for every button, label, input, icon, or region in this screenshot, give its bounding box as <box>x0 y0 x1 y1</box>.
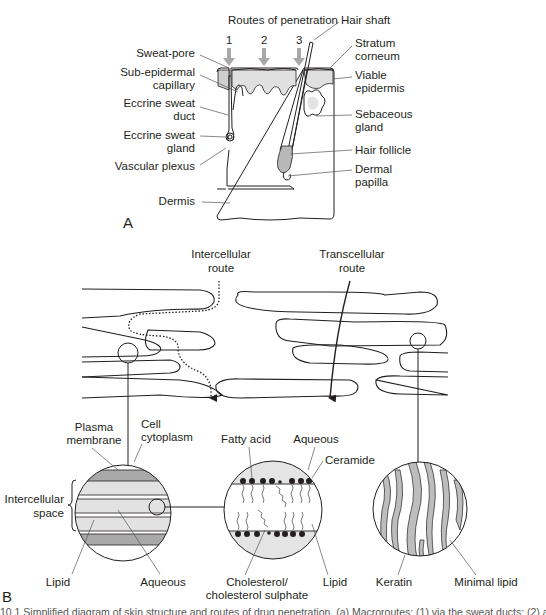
transcellular-route-label: Transcellular <box>319 248 385 260</box>
svg-text:cholesterol sulphate: cholesterol sulphate <box>206 589 308 601</box>
magnify-circle-transcellular <box>410 333 426 349</box>
corneocyte-layers <box>82 289 448 398</box>
label-dermal-papilla: Dermal <box>355 163 392 175</box>
zoom-circle-keratin: Keratin Minimal lipid <box>372 460 518 588</box>
arrow-down-icon <box>293 48 305 66</box>
route-number-3: 3 <box>296 34 302 46</box>
arrow-down-icon <box>223 48 235 66</box>
label-plasma-membrane: Plasma <box>75 421 114 433</box>
label-sweat-pore: Sweat-pore <box>136 47 195 59</box>
svg-text:gland: gland <box>355 121 383 133</box>
label-sebaceous-gland: Sebaceous <box>355 108 413 120</box>
label-ceramide: Ceramide <box>325 454 375 466</box>
skin-block <box>217 42 334 220</box>
label-cell-cytoplasm: Cell <box>141 418 161 430</box>
routes-title: Routes of penetration <box>228 14 338 26</box>
label-keratin: Keratin <box>376 576 412 588</box>
panel-b: Intercellular route Transcellular route <box>2 248 518 605</box>
label-cholesterol: Cholesterol/ <box>226 576 288 588</box>
svg-text:capillary: capillary <box>153 79 195 91</box>
svg-text:epidermis: epidermis <box>355 82 405 94</box>
label-hair-shaft: Hair shaft <box>341 14 391 26</box>
svg-text:route: route <box>208 262 234 274</box>
label-eccrine-duct: Eccrine sweat <box>123 97 195 109</box>
svg-text:space: space <box>33 507 64 519</box>
route-number-2: 2 <box>261 34 267 46</box>
label-hair-follicle: Hair follicle <box>355 144 411 156</box>
arrow-down-icon <box>258 48 270 66</box>
label-lipid-left: Lipid <box>46 576 70 588</box>
label-vascular-plexus: Vascular plexus <box>115 160 196 172</box>
label-fatty-acid: Fatty acid <box>221 433 271 445</box>
panel-a-letter: A <box>123 214 133 231</box>
skin-penetration-diagram: Routes of penetration 1 2 3 <box>0 0 546 615</box>
magnify-circle-intercellular <box>118 343 138 363</box>
label-viable-epidermis: Viable <box>355 69 387 81</box>
intercellular-route-label: Intercellular <box>191 248 251 260</box>
label-aqueous-left: Aqueous <box>140 576 186 588</box>
svg-text:corneum: corneum <box>355 50 400 62</box>
zoom-circle-intercellular: Plasma membrane Cell cytoplasm Intercell… <box>5 418 228 588</box>
label-eccrine-gland: Eccrine sweat <box>123 129 195 141</box>
svg-text:duct: duct <box>173 110 196 122</box>
label-aqueous-middle: Aqueous <box>293 433 339 445</box>
label-sub-epidermal: Sub-epidermal <box>120 66 195 78</box>
svg-text:papilla: papilla <box>355 176 389 188</box>
figure-caption: 10.1 Simplified diagram of skin structur… <box>0 606 546 615</box>
zoom-circle-lipid-bilayer: Fatty acid Aqueous Ceramide Cholesterol/… <box>206 433 375 601</box>
label-dermis: Dermis <box>159 195 196 207</box>
route-arrows <box>223 48 305 66</box>
route-number-1: 1 <box>226 34 232 46</box>
label-stratum-corneum: Stratum <box>355 37 395 49</box>
svg-text:membrane: membrane <box>67 434 122 446</box>
svg-text:cytoplasm: cytoplasm <box>141 431 193 443</box>
label-intercellular-space: Intercellular <box>5 493 65 505</box>
panel-b-letter: B <box>2 588 12 605</box>
svg-text:route: route <box>339 262 365 274</box>
panel-a: Routes of penetration 1 2 3 <box>115 14 413 231</box>
svg-text:gland: gland <box>167 142 195 154</box>
labels-right: Hair shaft Stratum corneum Viable epider… <box>288 14 413 188</box>
label-minimal-lipid: Minimal lipid <box>454 576 517 588</box>
label-lipid-middle: Lipid <box>323 576 347 588</box>
